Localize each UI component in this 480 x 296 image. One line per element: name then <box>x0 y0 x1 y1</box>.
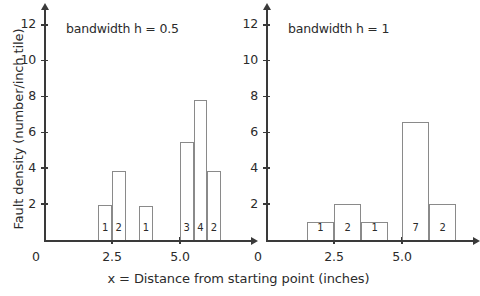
x-axis-line <box>44 240 251 242</box>
y-axis-tick <box>263 60 270 62</box>
y-axis-arrow-icon <box>263 3 271 10</box>
y-axis-tick <box>41 167 48 169</box>
x-axis-tick-label: 2.5 <box>92 251 132 264</box>
y-axis-tick <box>263 24 270 26</box>
y-axis-tick-label: 12 <box>232 18 258 31</box>
y-axis-tick-label: 4 <box>232 162 258 175</box>
y-axis-arrow-icon <box>41 3 49 10</box>
origin-label: 0 <box>254 251 262 264</box>
origin-label: 0 <box>32 251 40 264</box>
bar-count-label: 7 <box>402 223 429 233</box>
y-axis-tick <box>263 167 270 169</box>
y-axis-tick <box>41 60 48 62</box>
bar-count-label: 2 <box>334 223 361 233</box>
panel-annotation-left: bandwidth h = 0.5 <box>66 22 179 35</box>
x-axis-tick-label: 5.0 <box>382 251 422 264</box>
y-axis-tick-label: 8 <box>232 90 258 103</box>
bar-count-label: 2 <box>429 223 456 233</box>
bar-count-label: 1 <box>361 223 388 233</box>
histogram-bar <box>194 100 208 240</box>
panel-bandwidth-0.5: bandwidth h = 0.5 246810122.55.00121342 <box>0 0 238 268</box>
y-axis-line <box>266 10 268 241</box>
y-axis-tick-label: 2 <box>232 198 258 211</box>
bar-count-label: 2 <box>207 223 221 233</box>
y-axis-tick <box>263 203 270 205</box>
y-axis-tick <box>263 96 270 98</box>
bar-count-label: 3 <box>180 223 194 233</box>
y-axis-title: Fault density (number/inch tile) <box>12 4 26 254</box>
y-axis-tick <box>41 24 48 26</box>
x-axis-title: x = Distance from starting point (inches… <box>0 272 477 286</box>
x-axis-arrow-icon <box>473 237 480 245</box>
panel-annotation-right: bandwidth h = 1 <box>288 22 389 35</box>
y-axis-tick <box>41 96 48 98</box>
y-axis-tick <box>263 132 270 134</box>
bar-count-label: 1 <box>98 223 112 233</box>
y-axis-line <box>44 10 46 241</box>
bar-count-label: 1 <box>307 223 334 233</box>
y-axis-tick-label: 10 <box>232 54 258 67</box>
x-axis-line <box>266 240 473 242</box>
y-axis-tick <box>41 132 48 134</box>
y-axis-tick-label: 6 <box>232 126 258 139</box>
x-axis-tick-label: 2.5 <box>314 251 354 264</box>
y-axis-tick <box>41 203 48 205</box>
bar-count-label: 1 <box>139 223 153 233</box>
x-axis-tick-label: 5.0 <box>160 251 200 264</box>
bar-count-label: 2 <box>112 223 126 233</box>
bar-count-label: 4 <box>194 223 208 233</box>
panel-bandwidth-1: bandwidth h = 1 246810122.55.0012172 <box>238 0 476 268</box>
